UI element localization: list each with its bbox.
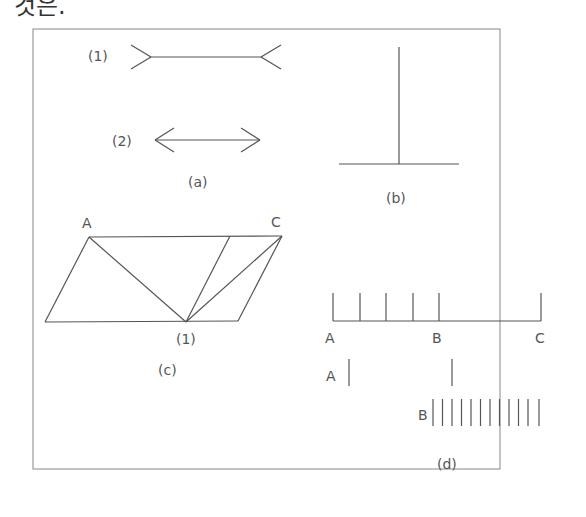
panel-d-label-a: A [325,330,335,346]
panel-a-caption: (a) [188,174,208,190]
panel-b-caption: (b) [386,190,406,206]
panel-d: A B C A B (d) [325,293,545,472]
vertical-horizontal-illusion [339,47,459,164]
panel-d-row-b-label: B [418,407,428,423]
panel-c: A C (1) (c) [45,214,282,378]
panel-c-point-1: (1) [176,331,196,347]
panel-a: (1) (2) (a) [88,45,281,190]
muller-lyer-outward-fins [131,45,281,69]
row-a-marks [349,359,452,386]
divided-line-abc [333,293,541,321]
panel-d-label-c: C [535,330,545,346]
row-b-ticks [433,399,539,426]
sander-parallelogram [45,236,282,322]
panel-c-point-a: A [82,215,92,231]
panel-c-point-c: C [271,214,281,230]
panel-d-caption: (d) [437,456,457,472]
panel-d-row-a-label: A [326,368,336,384]
illusion-figure: (1) (2) (a) (b) A C [0,0,586,517]
muller-lyer-inward-fins [155,128,260,152]
panel-b: (b) [339,47,459,206]
panel-a-item1-label: (1) [88,48,108,64]
panel-c-caption: (c) [158,362,177,378]
panel-a-item2-label: (2) [112,133,132,149]
panel-d-label-b: B [432,330,442,346]
